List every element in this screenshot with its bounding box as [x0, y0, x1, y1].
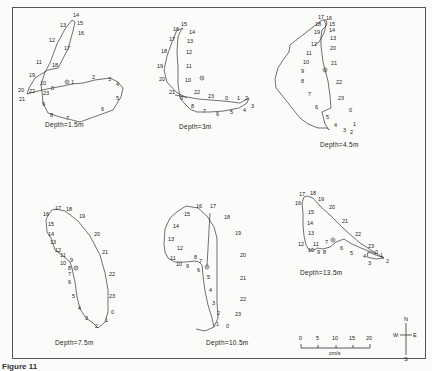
svg-text:10: 10	[185, 77, 191, 83]
panel-4-5m-curve	[275, 20, 331, 130]
svg-text:6: 6	[340, 245, 343, 251]
svg-text:10: 10	[40, 80, 46, 86]
svg-text:3: 3	[108, 76, 111, 82]
svg-text:13: 13	[330, 35, 336, 41]
svg-text:14: 14	[73, 12, 79, 18]
svg-text:6: 6	[216, 111, 219, 117]
svg-text:19: 19	[318, 196, 324, 202]
svg-text:7: 7	[199, 258, 202, 264]
svg-text:1: 1	[380, 252, 383, 258]
svg-text:2: 2	[92, 74, 95, 80]
svg-text:4: 4	[334, 122, 337, 128]
svg-text:15: 15	[184, 211, 190, 217]
svg-text:17: 17	[318, 14, 324, 20]
svg-text:21: 21	[169, 89, 175, 95]
panel-1-hour-labels: 141315 161217 111819 1001 234 567 8920 2…	[18, 12, 119, 121]
svg-text:11: 11	[186, 63, 192, 69]
svg-text:17: 17	[169, 36, 175, 42]
svg-text:18: 18	[310, 190, 316, 196]
svg-text:11: 11	[60, 252, 66, 258]
scale-tick-20: 20	[366, 335, 372, 341]
svg-text:1: 1	[71, 79, 74, 85]
svg-text:5: 5	[116, 95, 119, 101]
svg-text:18: 18	[66, 206, 72, 212]
svg-text:23: 23	[43, 90, 49, 96]
svg-text:1: 1	[353, 121, 356, 127]
svg-text:19: 19	[235, 230, 241, 236]
svg-text:2: 2	[350, 129, 353, 135]
svg-text:6: 6	[68, 279, 71, 285]
svg-text:8: 8	[191, 103, 194, 109]
svg-text:18: 18	[224, 214, 230, 220]
svg-text:10: 10	[308, 247, 314, 253]
svg-text:20: 20	[240, 252, 246, 258]
svg-text:0: 0	[349, 107, 352, 113]
svg-text:22: 22	[29, 88, 35, 94]
svg-text:23: 23	[338, 95, 344, 101]
svg-text:19: 19	[29, 72, 35, 78]
svg-text:12: 12	[49, 37, 55, 43]
svg-text:0: 0	[111, 309, 114, 315]
scale-bar: 0 5 10 15 20 cm/s	[299, 335, 372, 356]
svg-text:16: 16	[196, 203, 202, 209]
svg-text:21: 21	[342, 218, 348, 224]
svg-text:9: 9	[317, 249, 320, 255]
svg-text:10: 10	[176, 261, 182, 267]
svg-text:8: 8	[194, 254, 197, 260]
svg-text:2: 2	[386, 258, 389, 264]
compass-west: W	[393, 332, 399, 338]
svg-text:17: 17	[64, 45, 70, 51]
svg-text:18: 18	[52, 62, 58, 68]
svg-text:0: 0	[225, 95, 228, 101]
svg-text:2: 2	[95, 323, 98, 329]
svg-text:15: 15	[181, 21, 187, 27]
svg-text:16: 16	[295, 200, 301, 206]
svg-text:16: 16	[78, 30, 84, 36]
svg-text:7: 7	[203, 108, 206, 114]
svg-text:2: 2	[217, 310, 220, 316]
svg-text:14: 14	[48, 231, 54, 237]
svg-text:6: 6	[101, 106, 104, 112]
svg-text:11: 11	[170, 255, 176, 261]
svg-text:3: 3	[343, 127, 346, 133]
svg-text:20: 20	[94, 231, 100, 237]
svg-text:16: 16	[173, 26, 179, 32]
svg-text:16: 16	[43, 211, 49, 217]
panel-1-depth-label: Depth=1.5m	[45, 121, 84, 129]
svg-text:9: 9	[186, 263, 189, 269]
scale-tick-5: 5	[316, 335, 319, 341]
svg-text:21: 21	[240, 275, 246, 281]
svg-text:23: 23	[235, 311, 241, 317]
svg-text:4: 4	[116, 81, 119, 87]
svg-text:13: 13	[308, 230, 314, 236]
svg-text:12: 12	[311, 41, 317, 47]
svg-text:2: 2	[245, 95, 248, 101]
svg-text:21: 21	[19, 96, 25, 102]
svg-text:9: 9	[301, 68, 304, 74]
svg-text:14: 14	[173, 223, 179, 229]
panel-7-5m-hour-labels: 171816 191514 201312 21119 1087 2265 234…	[43, 205, 115, 329]
svg-text:14: 14	[329, 27, 335, 33]
svg-text:4: 4	[363, 253, 366, 259]
svg-text:0: 0	[375, 249, 378, 255]
svg-text:23: 23	[368, 243, 374, 249]
svg-text:20: 20	[159, 76, 165, 82]
svg-text:11: 11	[306, 50, 312, 56]
svg-text:5: 5	[326, 114, 329, 120]
svg-text:20: 20	[330, 45, 336, 51]
panel-6-depth-label: Depth=13.5m	[300, 269, 343, 277]
svg-text:9: 9	[42, 101, 45, 107]
svg-text:22: 22	[240, 296, 246, 302]
figure-caption: Figure 11	[2, 362, 37, 371]
svg-text:22: 22	[109, 271, 115, 277]
panel-13-5m-hour-labels: 171816 191520 142113 221211 7610 985 230…	[295, 190, 389, 266]
svg-text:14: 14	[307, 220, 313, 226]
svg-text:13: 13	[187, 38, 193, 44]
svg-text:21: 21	[331, 60, 337, 66]
scale-tick-0: 0	[299, 335, 302, 341]
svg-text:10: 10	[303, 59, 309, 65]
svg-text:9: 9	[180, 95, 183, 101]
svg-text:20: 20	[329, 204, 335, 210]
svg-text:17: 17	[55, 205, 61, 211]
